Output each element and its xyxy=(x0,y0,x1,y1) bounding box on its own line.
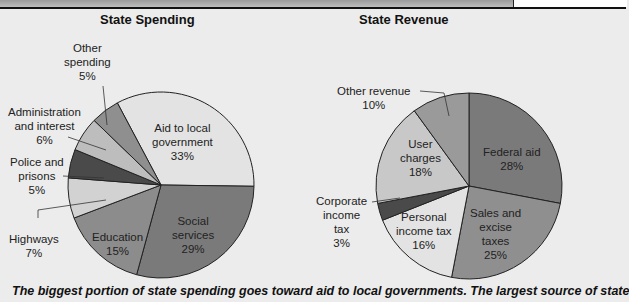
label-other-revenue: Other revenue 10% xyxy=(337,84,411,112)
label-aid-local: Aid to local government 33% xyxy=(152,121,213,163)
label-user-charges: User charges 18% xyxy=(400,137,441,179)
label-social-services: Social services 29% xyxy=(172,214,214,256)
caption: The biggest portion of state spending go… xyxy=(12,284,629,298)
label-other-spending: Other spending 5% xyxy=(64,41,111,83)
label-corporate-tax: Corporate income tax 3% xyxy=(316,194,367,250)
label-personal-tax: Personal income tax 16% xyxy=(396,210,452,252)
label-education: Education 15% xyxy=(92,230,143,258)
label-highways: Highways 7% xyxy=(9,232,59,260)
label-police: Police and prisons 5% xyxy=(10,155,64,197)
label-sales-tax: Sales and excise taxes 25% xyxy=(470,206,521,262)
label-administration: Administration and interest 6% xyxy=(8,105,81,147)
label-federal-aid: Federal aid 28% xyxy=(483,145,541,173)
